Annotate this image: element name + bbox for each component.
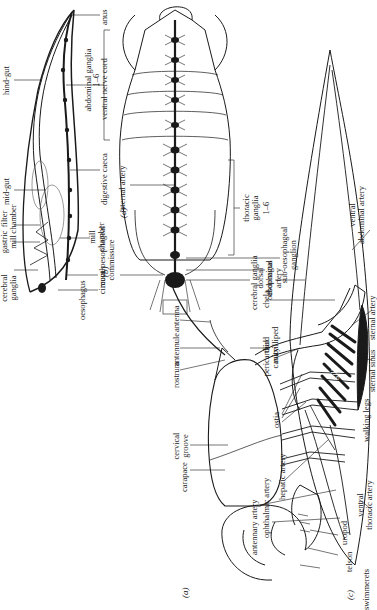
label-digestive-caeca: digestive caeca — [100, 153, 109, 205]
label-sternal-artery-d: sternal artery — [118, 165, 127, 210]
figure-stage: (b) cerebral ganglia gastric mill filter… — [0, 0, 377, 610]
label-antennary-artery: antennary artery — [250, 500, 259, 555]
label-sternal-sinus: sternal sinus — [368, 350, 377, 392]
label-ventral-abdominal-artery: ventral abdominal artery — [348, 185, 366, 245]
label-sternal-artery-c: sternal artery — [368, 295, 377, 340]
label-gills: gills — [330, 365, 339, 380]
label-telson: telson — [345, 552, 354, 572]
label-walking-legs: walking legs — [362, 399, 371, 442]
label-thoracic-ganglia: thoracic ganglia — [242, 186, 260, 230]
label-mid-gut: mid-gut — [2, 178, 11, 205]
label-abdominal-range: 1–6 — [92, 40, 101, 120]
label-thoracic-range: 1–6 — [262, 186, 271, 230]
label-uropod: uropod — [340, 521, 349, 545]
label-ostia: ostia — [272, 412, 281, 428]
label-hepatic-artery: hepatic artery — [278, 454, 287, 500]
label-dorsal-abdominal-artery: dorsal abdominal artery — [256, 251, 283, 305]
panel-a-tag: (a) — [180, 588, 190, 599]
label-ventral-thoracic-artery: ventral thoracic artery — [356, 480, 374, 530]
label-hind-gut: hind-gut — [2, 66, 11, 95]
label-cerebral-ganglia-b: cerebral ganglia — [0, 268, 18, 308]
label-pericardial-cavity: pericardial cavity — [262, 334, 280, 382]
label-ventral-nerve-cord: ventral nerve cord — [100, 58, 109, 120]
label-cervical-groove: cervical groove — [172, 424, 190, 468]
figure-artwork — [0, 0, 377, 610]
label-antennule: antennule — [172, 333, 181, 366]
panel-c-tag: (c) — [345, 590, 355, 600]
label-circum-oesophageal-commissure: circum-oesophageal commissure — [98, 220, 116, 300]
label-oesophagus-b: oesophagus — [78, 280, 87, 320]
label-antenna: antenna — [172, 306, 181, 332]
label-swimmerets: swimmerets — [362, 569, 371, 610]
label-anus: anus — [100, 9, 109, 25]
label-ophthalmic-artery: ophthalmic artery — [262, 478, 271, 538]
